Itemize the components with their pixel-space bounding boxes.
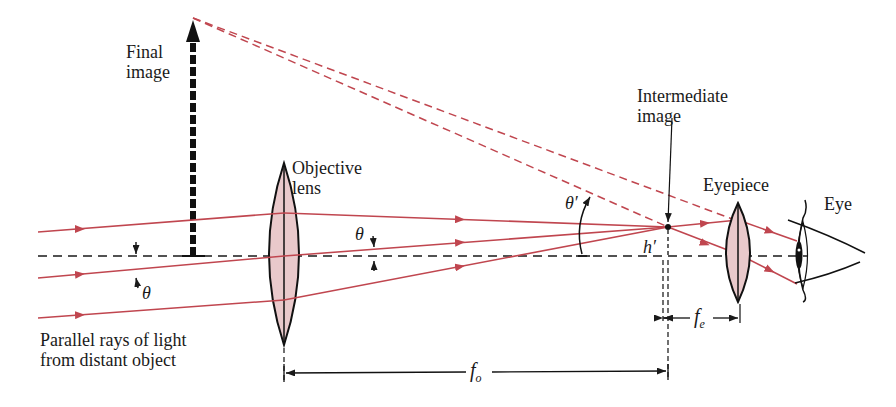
theta-label-left: θ <box>142 283 151 303</box>
parallel-rays-label-line1: Parallel rays of light <box>40 330 186 350</box>
incoming-rays <box>38 213 284 318</box>
final-image-label-line1: Final <box>126 42 170 62</box>
fo-sub: o <box>476 371 482 385</box>
virtual-ray-lower <box>193 18 668 227</box>
final-image-label-line2: image <box>126 62 170 82</box>
fe-label: fe <box>694 306 705 334</box>
intermediate-image-label-line1: Intermediate <box>637 86 728 106</box>
parallel-rays-label: Parallel rays of light from distant obje… <box>40 330 186 370</box>
theta-label-middle: θ <box>355 224 364 244</box>
objective-lens-label: Objective lens <box>292 158 362 198</box>
intermediate-image-marker <box>663 118 672 378</box>
intermediate-image-label: Intermediate image <box>637 86 728 126</box>
parallel-rays-label-line2: from distant object <box>40 350 186 370</box>
fe-sub: e <box>700 317 705 331</box>
theta-prime-angle <box>576 197 590 256</box>
intermediate-image-label-line2: image <box>637 106 728 126</box>
h-prime-label: h′ <box>643 237 656 257</box>
objective-lens-label-line2: lens <box>292 178 362 198</box>
theta-markers <box>136 236 374 288</box>
eye-label: Eye <box>824 194 852 214</box>
eyepiece-label: Eyepiece <box>703 175 769 195</box>
eye-icon <box>788 200 865 302</box>
objective-lens-label-line1: Objective <box>292 158 362 178</box>
theta-prime-label: θ′ <box>565 193 578 213</box>
fo-label: fo <box>470 360 482 388</box>
final-image-label: Final image <box>126 42 170 82</box>
